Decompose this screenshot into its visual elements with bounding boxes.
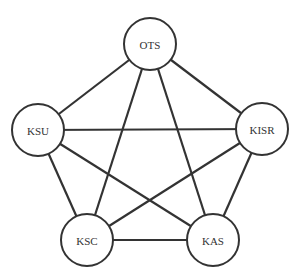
edge-kisr-ksc <box>87 129 262 240</box>
node-kisr: KISR <box>236 103 288 155</box>
nodes-group: OTS KSU KISR KSC KAS <box>12 18 288 266</box>
node-label-ots: OTS <box>140 39 161 51</box>
node-label-ksc: KSC <box>76 235 97 247</box>
edge-ots-kas <box>150 44 213 240</box>
node-label-kisr: KISR <box>249 124 275 136</box>
node-ksu: KSU <box>12 104 64 156</box>
network-diagram: OTS KSU KISR KSC KAS <box>0 0 301 280</box>
edge-ksu-kisr <box>38 129 262 130</box>
node-ksc: KSC <box>61 214 113 266</box>
node-label-kas: KAS <box>202 235 224 247</box>
edge-ksu-kas <box>38 130 213 240</box>
edge-ots-ksc <box>87 44 150 240</box>
node-label-ksu: KSU <box>27 125 49 137</box>
edges-group <box>38 44 262 240</box>
node-ots: OTS <box>124 18 176 70</box>
node-kas: KAS <box>187 214 239 266</box>
